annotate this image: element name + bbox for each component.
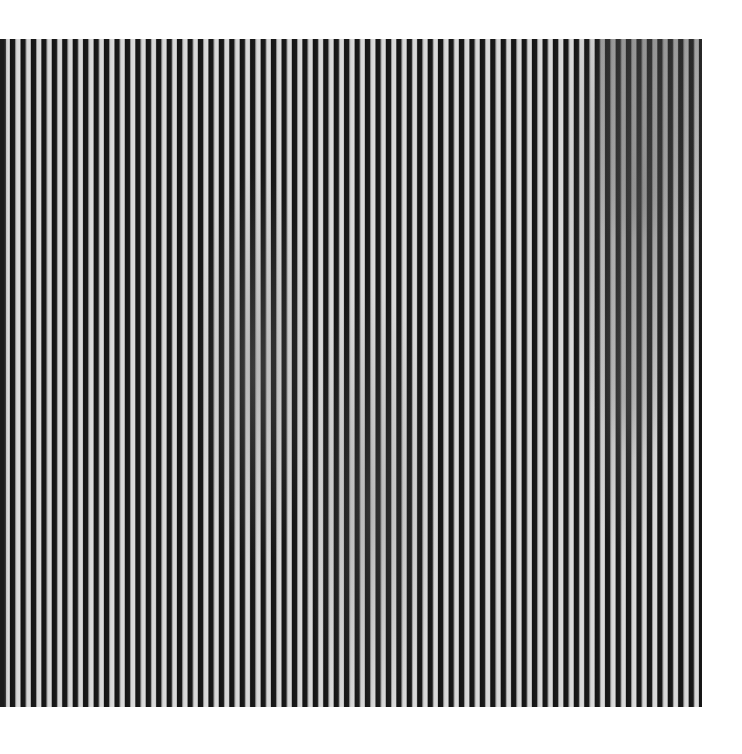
striped-painting (0, 39, 702, 707)
painting-left-edge (0, 39, 6, 707)
